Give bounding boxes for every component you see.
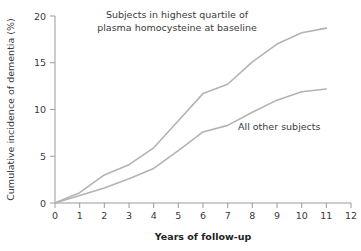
x-tick-label: 8: [249, 210, 255, 221]
x-tick-label: 12: [345, 210, 357, 221]
annotation-highest-quartile: Subjects in highest quartile of plasma h…: [97, 9, 257, 33]
x-axis-ticks: [55, 203, 351, 208]
x-axis-title: Years of follow-up: [154, 231, 252, 242]
data-series-group: [55, 28, 326, 203]
annotation-highest-quartile-line2: plasma homocysteine at baseline: [97, 22, 257, 33]
annotation-all-other: All other subjects: [238, 121, 321, 132]
y-tick-label: 20: [34, 11, 46, 22]
x-tick-label: 2: [101, 210, 107, 221]
x-tick-label: 9: [274, 210, 280, 221]
x-tick-label: 0: [52, 210, 58, 221]
axis-lines: [55, 16, 351, 203]
x-tick-label: 1: [77, 210, 83, 221]
x-tick-label: 3: [126, 210, 132, 221]
x-tick-label: 6: [200, 210, 206, 221]
y-tick-label: 5: [40, 151, 46, 162]
line-chart: 0 5 10 15 20 0 1 2 3 4: [0, 0, 361, 251]
y-axis-title: Cumulative incidence of dementia (%): [5, 18, 16, 201]
annotation-highest-quartile-line1: Subjects in highest quartile of: [106, 9, 249, 20]
y-tick-label: 10: [34, 104, 46, 115]
x-tick-label: 4: [151, 210, 157, 221]
chart-figure: 0 5 10 15 20 0 1 2 3 4: [0, 0, 361, 251]
x-tick-label: 10: [296, 210, 308, 221]
x-tick-label: 7: [225, 210, 231, 221]
x-axis-tick-labels: 0 1 2 3 4 5 6 7 8 9 10 11 12: [52, 210, 357, 221]
annotation-all-other-line1: All other subjects: [238, 121, 321, 132]
y-axis-ticks: [50, 16, 55, 203]
y-tick-label: 0: [40, 198, 46, 209]
x-tick-label: 5: [175, 210, 181, 221]
line-series-highest-quartile: [55, 28, 326, 203]
y-axis-tick-labels: 0 5 10 15 20: [34, 11, 46, 209]
x-tick-label: 11: [320, 210, 332, 221]
y-tick-label: 15: [34, 57, 46, 68]
